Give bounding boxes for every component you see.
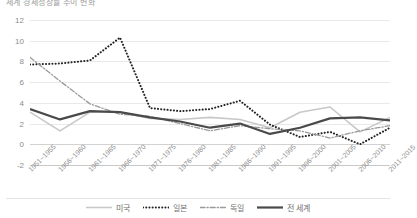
x-axis-tick-labels: 1951~19551956~19601961~19651966~19701971… — [30, 166, 390, 196]
plot-area — [30, 20, 390, 165]
y-tick-8: 8 — [20, 57, 24, 66]
legend-label: 일본 — [173, 202, 187, 213]
legend-label: 전 세계 — [287, 202, 310, 213]
legend-divider — [6, 198, 390, 199]
legend-item-전 세계[interactable]: 전 세계 — [257, 202, 310, 213]
y-tick-2: 2 — [20, 119, 24, 128]
legend-key-solid-light — [86, 203, 112, 212]
x-tick-12: 2011~2015 — [387, 143, 416, 172]
y-tick-12: 12 — [15, 16, 24, 25]
y-tick-4: 4 — [20, 98, 24, 107]
chart-title: 세계 경제성장률 추이 변화 — [6, 0, 95, 7]
legend-item-미국[interactable]: 미국 — [86, 202, 130, 213]
y-tick-0: 0 — [20, 140, 24, 149]
y-tick--2: -2 — [17, 161, 24, 170]
legend-item-독일[interactable]: 독일 — [200, 202, 244, 213]
legend-key-solid-dark — [257, 203, 283, 212]
legend-key-dotted — [143, 203, 169, 212]
y-tick-10: 10 — [15, 36, 24, 45]
y-axis-tick-labels: 121086420-2 — [0, 20, 28, 165]
legend-label: 미국 — [116, 202, 130, 213]
y-tick-6: 6 — [20, 78, 24, 87]
legend-key-dash-dot — [200, 203, 226, 212]
chart-legend: 미국일본독일전 세계 — [0, 198, 396, 216]
legend-item-일본[interactable]: 일본 — [143, 202, 187, 213]
series-line-독일 — [30, 57, 390, 138]
legend-label: 독일 — [230, 202, 244, 213]
series-lines — [30, 20, 390, 165]
